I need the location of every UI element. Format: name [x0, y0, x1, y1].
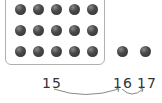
jump-arrows: [0, 0, 162, 103]
